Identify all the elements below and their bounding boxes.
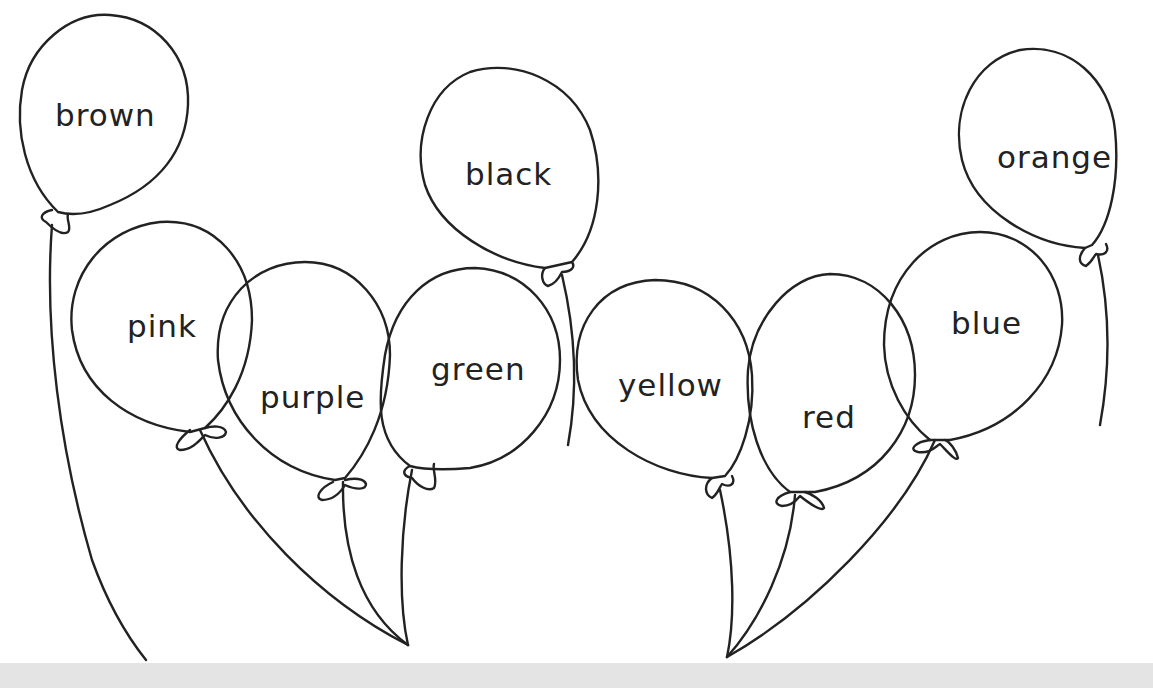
red-string	[727, 495, 795, 657]
red-label: red	[802, 399, 856, 435]
brown-string	[50, 225, 146, 660]
yellow-label: yellow	[618, 367, 723, 403]
yellow-balloon-knot	[706, 476, 733, 498]
orange-string	[1098, 255, 1107, 425]
black-label: black	[465, 156, 552, 192]
balloon-bodies	[20, 15, 1116, 509]
blue-balloon-knot	[913, 440, 958, 459]
purple-string	[343, 482, 408, 645]
yellow-string	[720, 490, 732, 657]
blue-string	[727, 440, 935, 657]
balloon-labels: brown pink purple green black yellow red…	[55, 97, 1112, 435]
orange-label: orange	[997, 139, 1112, 175]
coloring-page: brown pink purple green black yellow red…	[0, 0, 1153, 688]
purple-label: purple	[260, 379, 365, 415]
red-balloon-knot	[776, 492, 824, 509]
green-label: green	[431, 351, 526, 387]
brown-label: brown	[55, 97, 156, 133]
pink-label: pink	[127, 308, 197, 344]
balloon-illustration: brown pink purple green black yellow red…	[0, 0, 1153, 688]
green-string	[402, 470, 412, 645]
black-string	[562, 275, 574, 445]
blue-label: blue	[951, 305, 1022, 341]
page-bottom-edge	[0, 663, 1153, 688]
